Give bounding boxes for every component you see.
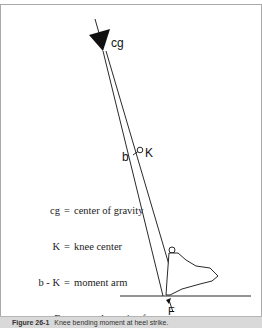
figure-caption: Figure 26-1 Knee bending moment at heel … <box>0 316 262 328</box>
legend-desc: moment arm <box>74 277 127 289</box>
legend-row-moment-arm: b - K = moment arm <box>18 277 164 289</box>
ankle-marker <box>169 247 175 253</box>
legend-key: b - K <box>18 277 60 289</box>
legend-row-cg: cg = center of gravity <box>18 205 164 217</box>
label-knee: K <box>145 146 153 160</box>
force-label: F <box>168 307 175 316</box>
knee-center-marker <box>137 147 143 153</box>
legend-desc: knee center <box>74 241 122 253</box>
legend-row-knee: K = knee center <box>18 241 164 253</box>
caption-text: Knee bending moment at heel strike. <box>54 319 168 326</box>
legend-equals: = <box>60 241 74 253</box>
label-cg: cg <box>111 36 124 50</box>
legend-desc: center of gravity <box>74 205 143 217</box>
label-b: b <box>122 150 129 164</box>
legend: cg = center of gravity K = knee center b… <box>18 181 164 328</box>
caption-number: Figure 26-1 <box>12 319 49 326</box>
legend-key: cg <box>18 205 60 217</box>
cg-arrowhead-icon <box>89 29 110 51</box>
legend-key: K <box>18 241 60 253</box>
foot-outline <box>166 253 218 295</box>
legend-equals: = <box>60 205 74 217</box>
legend-equals: = <box>60 277 74 289</box>
